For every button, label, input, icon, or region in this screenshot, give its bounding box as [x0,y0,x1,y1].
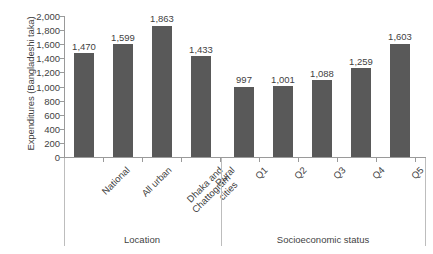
x-tick-mark [337,158,338,162]
y-axis-line [64,16,65,157]
cat-label-national: National [100,165,132,197]
y-tick-label: 0 [28,153,60,162]
bar-rural[interactable] [191,56,211,157]
bar-value-q2: 1,001 [271,74,295,85]
bar-value-q5: 1,603 [388,31,412,42]
bar-chart: Expenditures (Bangladeshi taka) 2,000 1,… [0,0,433,254]
x-tick-mark [142,158,143,162]
x-tick-mark [103,158,104,162]
bar-value-all-urban: 1,599 [111,32,135,43]
y-tick-label: 1,000 [28,82,60,91]
bar-q4[interactable] [351,68,371,157]
bar-q5[interactable] [390,44,410,157]
cat-label-q3: Q3 [332,165,348,181]
y-tick-label: 1,600 [28,40,60,49]
cat-label-q1: Q1 [254,165,270,181]
y-tick-label: 600 [28,110,60,119]
x-tick-mark [298,158,299,162]
bar-value-dhaka-chattogram-cities: 1,863 [150,13,174,24]
cat-label-q2: Q2 [293,165,309,181]
group-title-socioeconomic-status: Socioeconomic status [277,234,369,245]
y-tick-label: 1,800 [28,26,60,35]
cat-label-line: Q1 [253,164,270,181]
cat-label-all-urban: All urban [140,165,174,199]
x-axis-line [64,157,426,158]
x-tick-mark [181,158,182,162]
group-separator-middle [221,158,222,246]
cat-label-q5: Q5 [410,165,426,181]
y-tick-label: 1,200 [28,68,60,77]
cat-label-line: National [100,164,132,196]
y-axis-tick-labels: 2,000 1,800 1,600 1,400 1,200 1,000 800 … [26,0,60,254]
bar-value-q3: 1,088 [310,68,334,79]
y-tick-label: 1,400 [28,54,60,63]
bar-value-national: 1,470 [72,41,96,52]
bar-value-q4: 1,259 [349,56,373,67]
group-title-location: Location [124,234,160,245]
y-tick-label: 400 [28,124,60,133]
group-separator-right [425,158,426,246]
bar-q1[interactable] [234,87,254,157]
cat-label-line: Q5 [409,164,426,181]
x-tick-mark [415,158,416,162]
bar-value-q1: 997 [236,74,252,85]
bar-national[interactable] [74,53,94,157]
cat-label-line: Q2 [292,164,309,181]
cat-label-q4: Q4 [371,165,387,181]
group-separator-left [64,158,65,246]
cat-label-line: Q3 [331,164,348,181]
y-tick-label: 800 [28,96,60,105]
bar-value-rural: 1,433 [189,44,213,55]
bar-all-urban[interactable] [113,44,133,157]
cat-label-line: All urban [139,164,173,198]
cat-label-line: Q4 [370,164,387,181]
bar-q3[interactable] [312,80,332,157]
x-tick-mark [376,158,377,162]
bar-q2[interactable] [273,86,293,157]
bar-dhaka-chattogram-cities[interactable] [152,26,172,157]
x-tick-mark [259,158,260,162]
y-tick-label: 200 [28,138,60,147]
y-tick-label: 2,000 [28,12,60,21]
